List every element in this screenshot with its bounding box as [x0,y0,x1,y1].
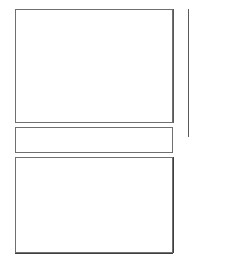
box-plot-canvas [16,128,172,152]
histogram-panel [15,157,173,253]
z-score-axis-line [173,9,174,123]
normal-quantile-right-axes [173,9,237,137]
count-axis-line [173,157,174,253]
count-axis [173,157,237,253]
x-axis-line [15,253,173,254]
normal-quantile-plot-canvas [16,10,172,122]
histogram-canvas [16,158,172,252]
distribution-analysis-chart [0,0,237,276]
x-axis [15,253,173,276]
probability-axis-line [188,9,189,137]
box-plot-panel [15,127,173,153]
normal-quantile-plot-panel [15,9,173,123]
